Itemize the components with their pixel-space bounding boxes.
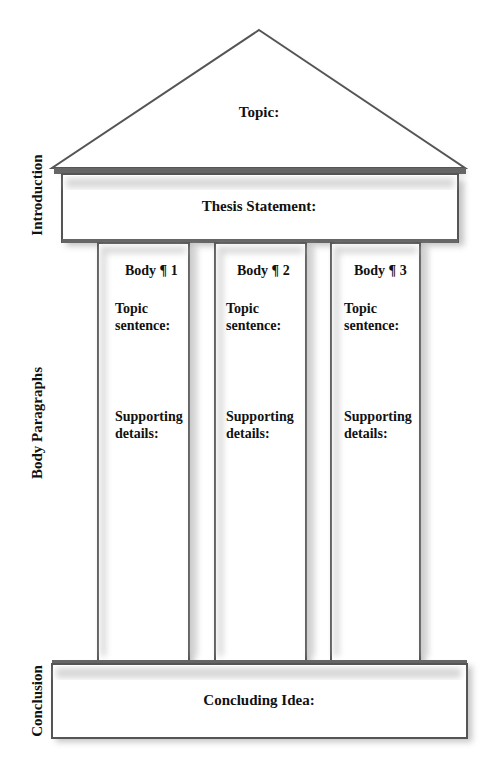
- column-3-title: Body ¶ 3: [354, 262, 407, 279]
- column-3-supporting-details: Supporting details:: [344, 408, 412, 442]
- pediment: [52, 30, 465, 168]
- label-introduction: Introduction: [29, 154, 46, 235]
- supporting-line: Supporting: [344, 408, 412, 425]
- supporting-line: Supporting: [226, 408, 294, 425]
- details-line: details:: [226, 425, 294, 442]
- column-2-topic-sentence: Topic sentence:: [226, 300, 281, 334]
- topic-line: Topic: [226, 300, 281, 317]
- column-3-topic-sentence: Topic sentence:: [344, 300, 399, 334]
- column-1-supporting-details: Supporting details:: [115, 408, 183, 442]
- column-1-topic-sentence: Topic sentence:: [115, 300, 170, 334]
- supporting-line: Supporting: [115, 408, 183, 425]
- topic-label: Topic:: [239, 104, 279, 121]
- details-line: details:: [115, 425, 183, 442]
- sentence-line: sentence:: [115, 317, 170, 334]
- label-body-paragraphs: Body Paragraphs: [29, 367, 46, 479]
- details-line: details:: [344, 425, 412, 442]
- column-1-title: Body ¶ 1: [125, 262, 178, 279]
- column-2-supporting-details: Supporting details:: [226, 408, 294, 442]
- concluding-idea-label: Concluding Idea:: [203, 692, 314, 709]
- thesis-statement-label: Thesis Statement:: [202, 198, 317, 215]
- topic-line: Topic: [344, 300, 399, 317]
- sentence-line: sentence:: [344, 317, 399, 334]
- topic-line: Topic: [115, 300, 170, 317]
- sentence-line: sentence:: [226, 317, 281, 334]
- column-2-title: Body ¶ 2: [237, 262, 290, 279]
- label-conclusion: Conclusion: [29, 665, 46, 737]
